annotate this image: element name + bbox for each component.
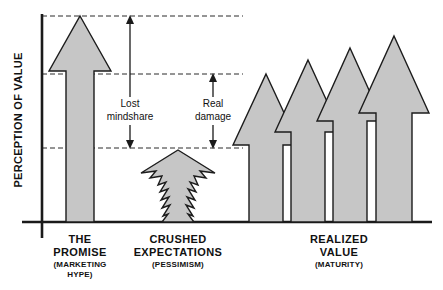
lost-mindshare-label-line1: Lost — [121, 98, 140, 109]
real-damage-label-line2: damage — [195, 111, 232, 122]
the-promise-sub2: HYPE) — [67, 270, 93, 279]
real-damage-label-line1: Real — [203, 98, 224, 109]
crushed-expectations-line1: CRUSHED — [149, 233, 206, 245]
diagram-canvas: PERCEPTION OF VALUE Lost mindshare — [0, 0, 443, 290]
crushed-expectations-line2: EXPECTATIONS — [134, 246, 223, 258]
hype-cycle-diagram: PERCEPTION OF VALUE Lost mindshare — [0, 0, 443, 290]
the-promise-line2: PROMISE — [53, 246, 107, 258]
realized-value-line1: REALIZED — [310, 233, 368, 245]
realized-value-line2: VALUE — [320, 246, 358, 258]
crushed-expectations-sub1: (PESSIMISM) — [152, 260, 204, 269]
the-promise-line1: THE — [68, 233, 91, 245]
lost-mindshare-label-line2: mindshare — [107, 111, 154, 122]
y-axis-title: PERCEPTION OF VALUE — [12, 52, 24, 187]
the-promise-sub1: (MARKETING — [53, 260, 106, 269]
realized-value-sub1: (MATURITY) — [315, 260, 363, 269]
